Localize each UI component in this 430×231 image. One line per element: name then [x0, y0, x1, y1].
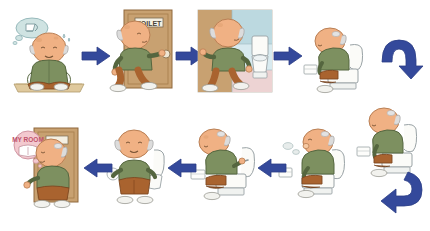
- panel-sitting-down-on-toilet: [298, 25, 374, 99]
- arrow-panel4-to-panel5: [378, 32, 424, 80]
- panel-leaving-back-to-room: MY ROOM: [6, 120, 90, 210]
- breath-puff-icon: [283, 143, 299, 155]
- panel-walking-to-toilet-door: TOILET: [104, 6, 180, 98]
- toilet-icon: [252, 36, 268, 78]
- character-standing-smiling: [113, 130, 155, 204]
- comic-strip-sequence: TOILET: [0, 0, 430, 231]
- my-room-text: MY ROOM: [12, 136, 44, 143]
- character-body: [28, 60, 71, 84]
- toilet-paper-icon: [357, 147, 370, 156]
- toilet-paper-icon: [304, 65, 317, 74]
- panel-entering-bathroom: [194, 6, 276, 98]
- arrow-panel5-to-panel6: [378, 170, 426, 214]
